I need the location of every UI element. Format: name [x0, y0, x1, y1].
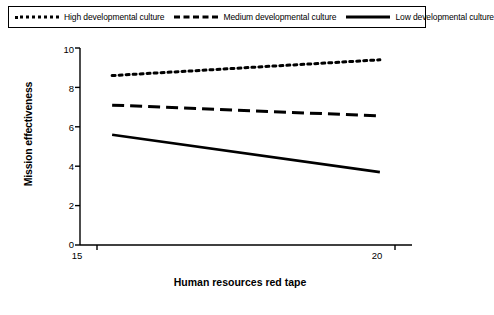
- legend-label-medium: Medium developmental culture: [223, 12, 336, 22]
- solid-line-sample-icon: [346, 12, 390, 22]
- series-line-medium: [112, 105, 380, 116]
- series-line-high: [112, 60, 380, 76]
- legend-entry-high: High developmental culture: [15, 12, 164, 22]
- legend-entry-low: Low developmental culture: [346, 12, 494, 22]
- dashed-line-sample-icon: [174, 12, 218, 22]
- y-tick-4: 4: [54, 161, 74, 172]
- dotted-line-sample-icon: [15, 12, 59, 22]
- y-tick-10: 10: [54, 44, 74, 55]
- y-tick-2: 2: [54, 200, 74, 211]
- x-tick-15: 15: [62, 250, 92, 261]
- legend-entry-medium: Medium developmental culture: [174, 12, 336, 22]
- legend-label-high: High developmental culture: [64, 12, 164, 22]
- y-axis-title: Mission effectiveness: [22, 44, 34, 224]
- legend-label-low: Low developmental culture: [395, 12, 494, 22]
- series-line-low: [112, 135, 380, 172]
- y-tick-6: 6: [54, 122, 74, 133]
- y-tick-8: 8: [54, 83, 74, 94]
- chart-legend: High developmental culture Medium develo…: [8, 6, 426, 28]
- x-axis-title: Human resources red tape: [70, 276, 410, 288]
- y-tick-0: 0: [54, 239, 74, 250]
- plot-area-wrapper: Mission effectiveness Human resources re…: [0, 28, 434, 315]
- x-tick-20: 20: [362, 250, 392, 261]
